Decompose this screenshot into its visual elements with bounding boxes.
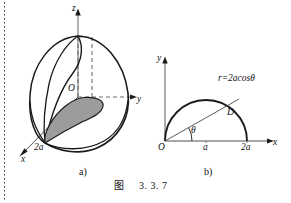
figure-caption-cjk: 图 xyxy=(114,181,124,191)
tick-label-2a: 2a xyxy=(241,143,251,153)
polar-curve-semicircle xyxy=(165,100,247,141)
angle-theta-label: θ xyxy=(191,126,196,136)
subfigure-a-graphic xyxy=(20,9,138,157)
origin-label-a: O xyxy=(68,84,75,94)
axis-z-arrow-icon xyxy=(75,9,81,16)
intercept-label-2a: 2a xyxy=(34,143,44,153)
tick-label-a: a xyxy=(203,143,208,153)
subfigure-b-graphic xyxy=(162,57,274,144)
b-axis-y-arrow-icon xyxy=(162,57,167,64)
figure-caption-number: 3. 3. 7 xyxy=(139,181,168,191)
axis-z-label: z xyxy=(72,4,76,14)
subfigure-a-tag: a) xyxy=(79,167,87,177)
polar-curve-equation-label: r=2acosθ xyxy=(218,74,255,84)
figure-vector-canvas xyxy=(0,0,291,203)
axis-x-label: x xyxy=(21,155,25,165)
shaded-projection-region xyxy=(45,97,103,143)
b-axis-x-label: x xyxy=(273,138,277,148)
origin-label-b: O xyxy=(158,143,165,153)
axis-y-arrow-icon xyxy=(130,94,137,99)
figure-3-3-7: z y x O 2a a) y x O a 2a r=2acosθ θ D b)… xyxy=(0,0,291,203)
b-axis-y-label: y xyxy=(157,54,161,64)
region-d-label: D xyxy=(227,107,234,117)
subfigure-b-tag: b) xyxy=(204,167,212,177)
axis-y-label: y xyxy=(137,95,141,105)
